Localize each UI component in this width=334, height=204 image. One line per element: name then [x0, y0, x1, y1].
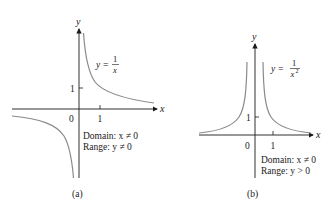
svg-text:y =: y = — [95, 60, 109, 70]
x-tick-label-1: 1 — [271, 141, 276, 151]
curve-negative-branch — [12, 116, 74, 178]
equation-label: y = 1 x 2 — [270, 58, 300, 79]
svg-text:x: x — [112, 65, 117, 75]
svg-text:2: 2 — [296, 68, 299, 74]
y-tick-label-1: 1 — [70, 84, 75, 94]
svg-text:x: x — [290, 69, 295, 79]
x-tick-label-1: 1 — [98, 114, 103, 124]
domain-text: Domain: x ≠ 0 — [83, 131, 138, 141]
caption: (b) — [247, 189, 258, 200]
svg-text:y =: y = — [270, 64, 284, 74]
x-axis-label: x — [159, 103, 165, 114]
figure: y x 0 1 1 y = 1 x Domain: x ≠ 0 Range: y… — [0, 0, 334, 204]
svg-text:1: 1 — [113, 54, 117, 64]
curve-positive-branch — [84, 33, 155, 103]
y-axis-label: y — [75, 16, 81, 27]
chart-a: y x 0 1 1 y = 1 x Domain: x ≠ 0 Range: y… — [12, 16, 165, 200]
range-text: Range: y ≠ 0 — [83, 142, 132, 152]
equation-label: y = 1 x — [95, 54, 119, 75]
origin-label: 0 — [245, 141, 250, 151]
range-text: Range: y > 0 — [261, 166, 310, 176]
domain-text: Domain: x ≠ 0 — [261, 155, 316, 165]
y-tick-label-1: 1 — [246, 113, 251, 123]
x-axis-label: x — [315, 129, 321, 140]
curve-left-branch — [199, 62, 247, 133]
y-axis-label: y — [251, 31, 257, 42]
chart-b: y x 0 1 1 y = 1 x 2 Domain: x ≠ 0 Range:… — [199, 31, 321, 200]
origin-label: 0 — [69, 114, 74, 124]
caption: (a) — [72, 189, 83, 200]
svg-text:1: 1 — [292, 58, 296, 68]
